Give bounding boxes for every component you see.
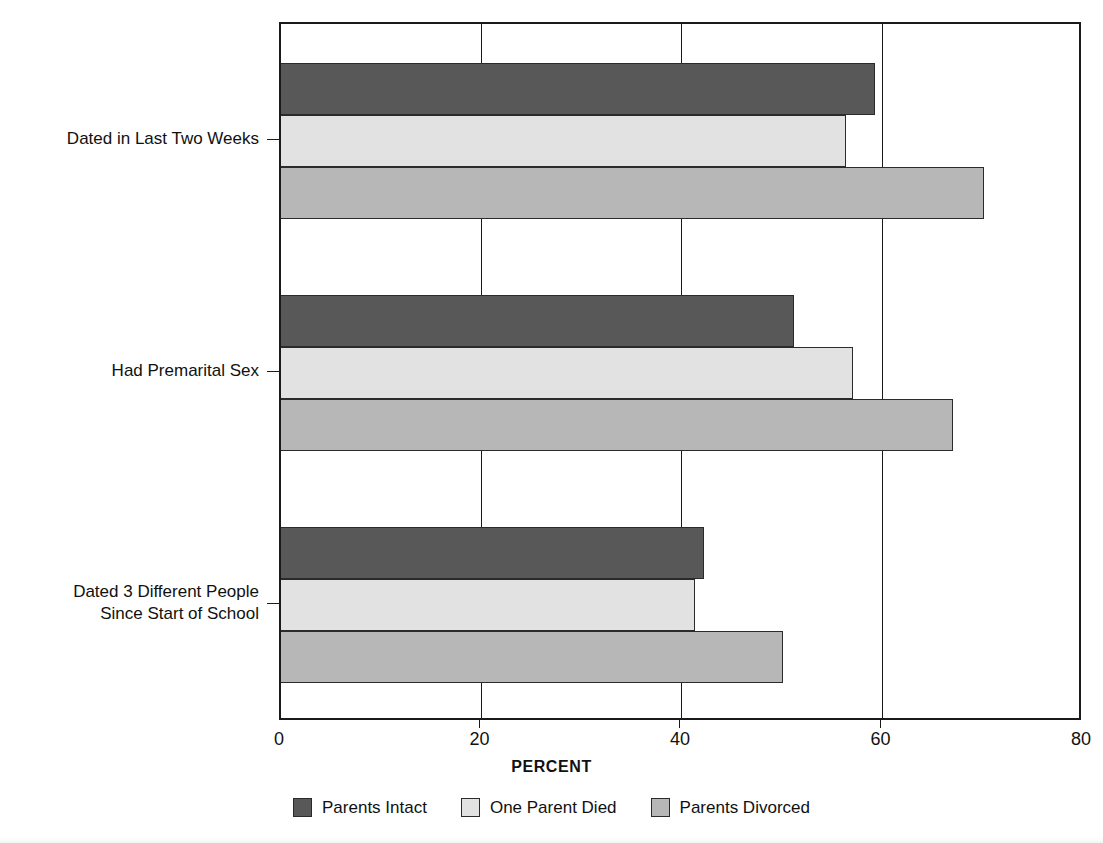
plot-area — [279, 22, 1081, 720]
scan-edge — [0, 836, 1103, 843]
legend: Parents IntactOne Parent DiedParents Div… — [0, 798, 1103, 817]
x-tick-label-20: 20 — [450, 729, 510, 749]
legend-label-3: Parents Divorced — [680, 798, 810, 817]
legend-item-1: Parents Intact — [293, 798, 427, 817]
x-tick-60 — [880, 719, 881, 728]
legend-label-1: Parents Intact — [322, 798, 427, 817]
bar-chart: Dated in Last Two WeeksHad Premarital Se… — [0, 0, 1103, 843]
category-label-3: Dated 3 Different PeopleSince Start of S… — [73, 581, 259, 625]
bar-group-1-series-1 — [281, 63, 875, 115]
bar-group-3-series-1 — [281, 527, 704, 579]
bar-group-1-series-3 — [281, 167, 984, 219]
category-label-line: Since Start of School — [73, 603, 259, 625]
swatch-parents-divorced — [651, 798, 670, 817]
category-label-line: Had Premarital Sex — [112, 360, 259, 382]
bar-group-2-series-3 — [281, 399, 953, 451]
bar-group-2-series-2 — [281, 347, 853, 399]
x-axis-title: PERCENT — [0, 758, 1103, 776]
x-tick-label-40: 40 — [650, 729, 710, 749]
category-tick-3 — [267, 603, 279, 604]
x-tick-label-80: 80 — [1051, 729, 1103, 749]
category-label-1: Dated in Last Two Weeks — [67, 128, 259, 150]
legend-item-2: One Parent Died — [461, 798, 617, 817]
x-tick-label-60: 60 — [851, 729, 911, 749]
bar-group-3-series-3 — [281, 631, 783, 683]
category-label-line: Dated 3 Different People — [73, 581, 259, 603]
x-tick-20 — [479, 719, 480, 728]
swatch-one-parent-died — [461, 798, 480, 817]
category-tick-1 — [267, 139, 279, 140]
bar-group-1-series-2 — [281, 115, 846, 167]
bar-group-3-series-2 — [281, 579, 695, 631]
category-tick-2 — [267, 371, 279, 372]
x-tick-40 — [679, 719, 680, 728]
category-label-2: Had Premarital Sex — [112, 360, 259, 382]
bar-group-2-series-1 — [281, 295, 794, 347]
category-label-line: Dated in Last Two Weeks — [67, 128, 259, 150]
x-tick-label-0: 0 — [249, 729, 309, 749]
swatch-parents-intact — [293, 798, 312, 817]
legend-label-2: One Parent Died — [490, 798, 617, 817]
gridline-60 — [882, 24, 883, 718]
legend-item-3: Parents Divorced — [651, 798, 810, 817]
